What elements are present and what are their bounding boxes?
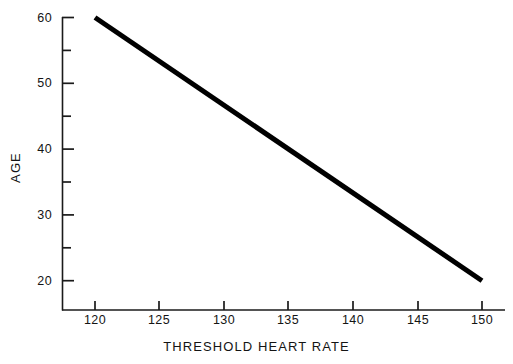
x-tick-label-130: 130	[204, 313, 244, 327]
x-tick-label-145: 145	[398, 313, 438, 327]
y-axis-title: AGE	[8, 133, 23, 203]
y-tick-label-30: 30	[12, 208, 52, 222]
x-tick-label-140: 140	[333, 313, 373, 327]
y-tick-label-60: 60	[12, 11, 52, 25]
x-tick-label-150: 150	[462, 313, 502, 327]
x-tick-label-135: 135	[268, 313, 308, 327]
line-chart-figure	[0, 0, 513, 364]
x-axis-title: THRESHOLD HEART RATE	[0, 339, 513, 354]
y-tick-label-20: 20	[12, 274, 52, 288]
y-tick-label-50: 50	[12, 76, 52, 90]
x-tick-label-120: 120	[75, 313, 115, 327]
x-tick-label-125: 125	[139, 313, 179, 327]
